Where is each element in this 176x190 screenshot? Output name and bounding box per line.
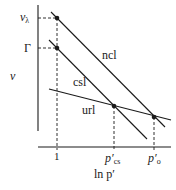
p-cs-tick-label: p′cs [104,151,120,166]
gamma-tick-label: Γ [24,41,31,55]
csl-label: csl [73,75,87,89]
critical-state-diagram: ncl csl url v vλ Γ 1 p′cs p′o ln p′ [0,0,176,190]
gamma-point [55,46,60,51]
x-axis-label: ln p′ [94,167,115,181]
url-label: url [82,103,96,117]
p-o-sub: o [157,157,161,166]
p-cs-base: p′ [104,151,114,165]
ncl-label: ncl [102,48,117,62]
p-o-base: p′ [147,151,157,165]
p-o-tick-label: p′o [147,151,161,166]
one-tick-label: 1 [54,150,60,162]
v-lambda-tick-label: vλ [20,10,29,25]
v-lambda-point [55,16,60,21]
guide-lines [38,18,154,150]
ncl-line [51,12,165,127]
v-lambda-sub: λ [25,16,29,25]
p-cs-sub: cs [114,157,121,166]
p-o-point [152,115,157,120]
p-cs-point [112,104,117,109]
csl-line [49,40,147,139]
y-axis-label: v [10,69,16,83]
